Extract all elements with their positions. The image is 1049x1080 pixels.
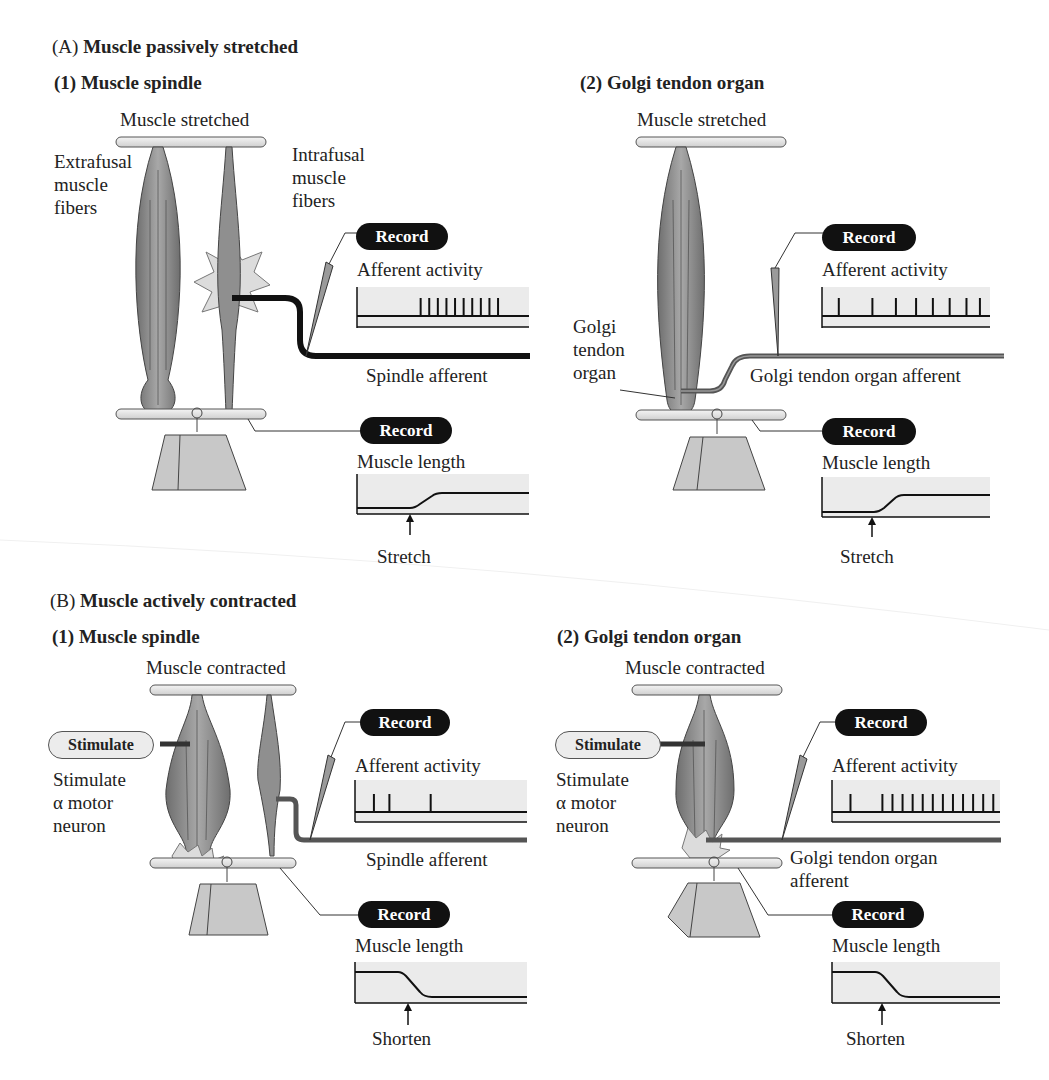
a-gto-afferent-name: Golgi tendon organ afferent <box>750 364 961 387</box>
a-spindle-state-label: Muscle stretched <box>120 108 249 131</box>
a-gto-event-label: Stretch <box>840 545 894 568</box>
b-spindle-afferent-activity-label: Afferent activity <box>355 754 481 777</box>
a-gto-apparatus <box>620 137 1004 537</box>
b-gto-record-afferent: Record <box>835 709 927 736</box>
a-spindle-record-length: Record <box>360 417 452 444</box>
extrafusal-label: Extrafusal muscle fibers <box>54 150 132 219</box>
b-spindle-event-label: Shorten <box>372 1027 431 1050</box>
b-spindle-length-label: Muscle length <box>355 934 463 957</box>
b-gto-record-length: Record <box>832 901 924 928</box>
b-spindle-record-length: Record <box>358 901 450 928</box>
b-spindle-stimulate-desc: Stimulate α motor neuron <box>53 768 126 837</box>
a-spindle-afferent-activity-label: Afferent activity <box>357 258 483 281</box>
b-spindle-afferent-name: Spindle afferent <box>366 848 488 871</box>
a-spindle-event-label: Stretch <box>377 545 431 568</box>
b-gto-stimulate-desc: Stimulate α motor neuron <box>556 768 629 837</box>
a-gto-afferent-activity-label: Afferent activity <box>822 258 948 281</box>
a-gto-state-label: Muscle stretched <box>637 108 766 131</box>
gto-label: Golgi tendon organ <box>573 315 625 384</box>
a-spindle-record-afferent: Record <box>356 223 448 250</box>
b-gto-stimulate-button[interactable]: Stimulate <box>555 731 661 759</box>
a-spindle-length-label: Muscle length <box>357 450 465 473</box>
a-gto-record-length: Record <box>822 418 916 445</box>
b-gto-state-label: Muscle contracted <box>625 656 765 679</box>
b-spindle-stimulate-button[interactable]: Stimulate <box>48 731 154 759</box>
b-gto-event-label: Shorten <box>846 1027 905 1050</box>
a-gto-record-afferent: Record <box>822 224 916 251</box>
a-gto-length-label: Muscle length <box>822 451 930 474</box>
b-spindle-state-label: Muscle contracted <box>146 656 286 679</box>
b-gto-afferent-name: Golgi tendon organ afferent <box>790 846 937 892</box>
intrafusal-label: Intrafusal muscle fibers <box>292 143 365 212</box>
b-gto-length-label: Muscle length <box>832 934 940 957</box>
b-spindle-record-afferent: Record <box>360 709 450 736</box>
b-gto-afferent-activity-label: Afferent activity <box>832 754 958 777</box>
a-spindle-afferent-name: Spindle afferent <box>366 364 488 387</box>
